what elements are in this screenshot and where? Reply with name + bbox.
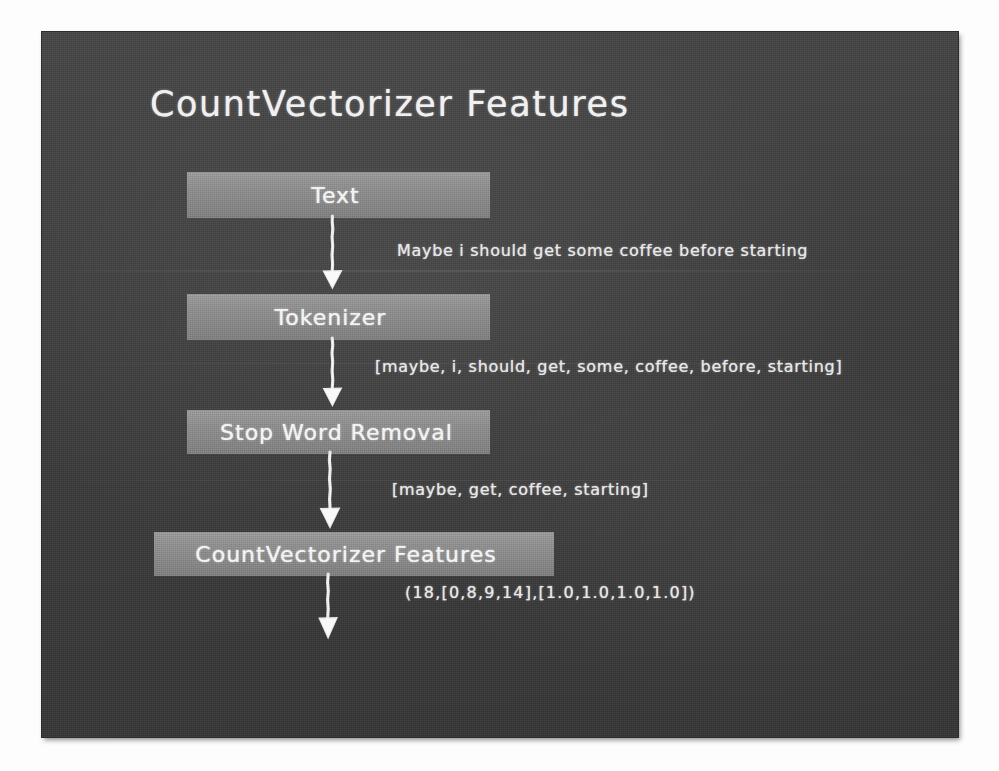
slide-canvas: CountVectorizer Features Text Maybe i sh… xyxy=(0,0,999,771)
flow-arrow-down-icon xyxy=(319,216,347,294)
chalk-smudge-streak xyxy=(42,270,958,272)
flow-node-label: Tokenizer xyxy=(275,305,387,330)
flow-node-stop-word-removal: Stop Word Removal xyxy=(187,410,490,454)
flow-node-label: Stop Word Removal xyxy=(220,420,453,445)
page-title: CountVectorizer Features xyxy=(150,84,630,124)
edge-annotation-countvec-output: (18,[0,8,9,14],[1.0,1.0,1.0,1.0]) xyxy=(405,583,696,602)
flow-node-label: Text xyxy=(311,183,360,208)
flow-node-label: CountVectorizer Features xyxy=(195,542,496,567)
flow-arrow-down-icon xyxy=(319,338,347,412)
flow-arrow-down-icon xyxy=(313,574,343,646)
flow-node-text: Text xyxy=(187,172,490,218)
edge-annotation-stopword-to-countvec: [maybe, get, coffee, starting] xyxy=(392,480,649,499)
edge-annotation-text-to-tokenizer: Maybe i should get some coffee before st… xyxy=(397,241,808,260)
flow-arrow-down-icon xyxy=(315,452,345,534)
flow-node-countvectorizer-features: CountVectorizer Features xyxy=(154,532,554,576)
flow-node-tokenizer: Tokenizer xyxy=(187,294,490,340)
edge-annotation-tokenizer-to-stopword: [maybe, i, should, get, some, coffee, be… xyxy=(375,357,842,376)
chalkboard-slide: CountVectorizer Features Text Maybe i sh… xyxy=(42,32,958,737)
